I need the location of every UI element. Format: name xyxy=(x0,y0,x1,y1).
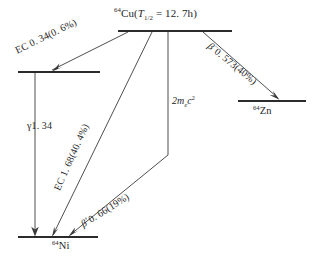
zn64-symbol: Zn xyxy=(260,105,272,116)
ec-1-68-arrow-head xyxy=(52,226,59,237)
halflife-subscript: 1/2 xyxy=(144,14,153,21)
ni64-mass-number: 64 xyxy=(52,239,59,246)
gamma-label: γ1. 34 xyxy=(27,121,52,131)
halflife-value: = 12. 7h) xyxy=(153,7,197,19)
gamma-text: 1. 34 xyxy=(32,120,53,131)
speed-of-light-exponent: 2 xyxy=(192,94,195,101)
decay-scheme-figure: 64Cu(T1/2 = 12. 7h) 64Ni 64Zn EC 0. 34(0… xyxy=(0,0,316,265)
annihilation-label: 2mec2 xyxy=(172,96,195,106)
cu64-symbol: Cu( xyxy=(121,7,138,19)
ec-0-34-arrow-head xyxy=(52,64,62,72)
ni64-ground-label: 64Ni xyxy=(52,241,69,252)
ec-0-34-arrow-line xyxy=(52,32,128,70)
cu64-mass-number: 64 xyxy=(114,6,121,13)
ni64-symbol: Ni xyxy=(59,240,70,251)
zn64-mass-number: 64 xyxy=(253,104,260,111)
zn64-ground-label: 64Zn xyxy=(253,106,272,117)
cu64-level-label: 64Cu(T1/2 = 12. 7h) xyxy=(114,8,197,19)
